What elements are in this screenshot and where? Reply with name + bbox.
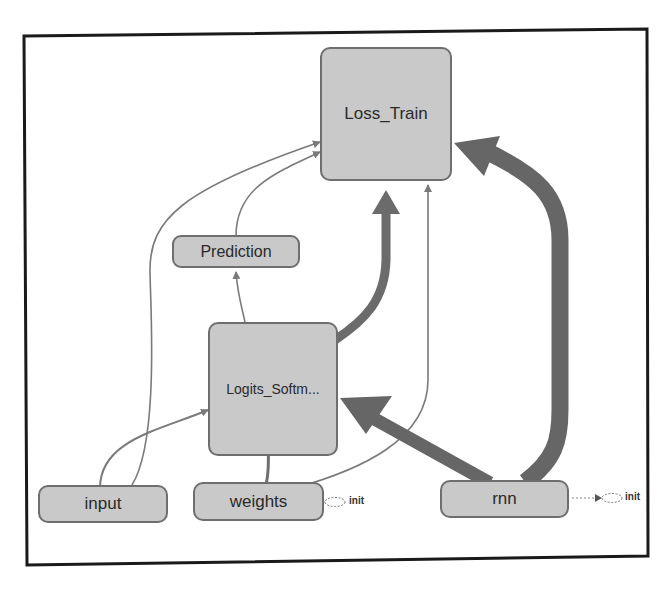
edge-rnn-to-loss[interactable] [488,152,560,482]
edge-rnn-to-logits[interactable] [362,412,490,483]
node-label: Logits_Softm... [226,381,319,397]
node-label: input [85,494,122,514]
node-prediction[interactable]: Prediction [172,235,300,268]
arrowhead-logits-to-loss [372,190,400,214]
init-node-icon[interactable] [325,498,345,507]
node-rnn[interactable]: rnn [440,480,569,518]
init-node-icon[interactable] [602,494,622,503]
node-label: weights [230,492,288,512]
node-label: rnn [492,489,517,509]
node-label: Prediction [200,243,271,261]
node-input[interactable]: input [38,485,168,523]
edge-logits-to-loss[interactable] [335,212,386,340]
weights-init-label[interactable]: init [349,495,364,506]
node-logits-softmax[interactable]: Logits_Softm... [208,322,338,456]
node-loss-train[interactable]: Loss_Train [320,47,452,181]
edge-logits-to-prediction[interactable] [236,272,245,322]
rnn-init-label[interactable]: init [625,491,640,502]
node-weights[interactable]: weights [193,482,324,521]
init-arrow-icon [595,494,602,502]
edge-input-to-logits[interactable] [100,410,208,488]
edge-prediction-to-loss[interactable] [236,152,320,236]
node-label: Loss_Train [344,104,427,124]
